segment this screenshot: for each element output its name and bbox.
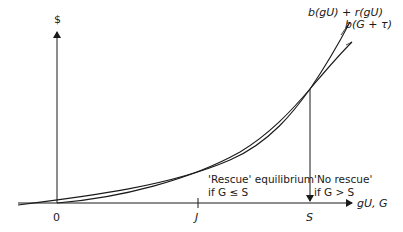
s-label: S: [306, 211, 313, 224]
x-axis-label: gU, G: [357, 197, 388, 210]
norescue-annotation-line1: 'No rescue': [314, 173, 372, 185]
norescue-annotation-line2: if G > S: [314, 186, 355, 198]
diagram-canvas: $ gU, G 0 J S b(gU) + r(gU) b(G + τ) 'Re…: [0, 0, 403, 232]
y-axis-label: $: [54, 13, 61, 26]
rescue-annotation-line2: if G ≤ S: [208, 186, 249, 198]
j-label: J: [193, 211, 198, 224]
origin-label: 0: [53, 211, 60, 224]
curve-label-b-g-tau: b(G + τ): [345, 18, 392, 31]
rescue-annotation-line1: 'Rescue' equilibrium: [208, 173, 314, 185]
